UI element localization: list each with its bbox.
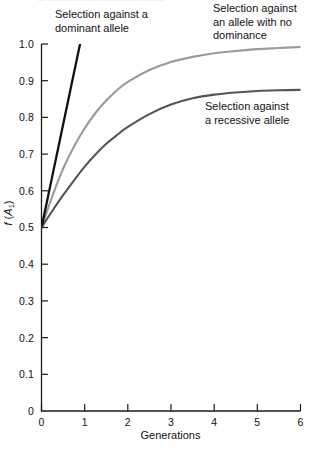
- x-tick-label-5: 5: [247, 417, 267, 428]
- y-axis-title-allele: A: [2, 208, 14, 215]
- y-tick-label-0.7: 0.7: [6, 149, 34, 160]
- y-tick-label-0.2: 0.2: [6, 333, 34, 344]
- y-tick-label-0.3: 0.3: [6, 296, 34, 307]
- y-axis-title-f: f: [2, 222, 14, 225]
- x-axis-title: Generations: [41, 429, 300, 441]
- x-tick-label-3: 3: [161, 417, 181, 428]
- x-tick-label-1: 1: [75, 417, 95, 428]
- x-tick-label-0: 0: [32, 417, 52, 428]
- y-tick-label-0.8: 0.8: [6, 112, 34, 123]
- x-tick-label-2: 2: [118, 417, 138, 428]
- x-tick-label-4: 4: [204, 417, 224, 428]
- annotation-no-dominance: Selection against an allele with no domi…: [213, 2, 313, 43]
- x-tick-label-6: 6: [291, 417, 311, 428]
- plot-canvas: [0, 0, 313, 449]
- y-axis-title-subscript: 1: [7, 204, 16, 208]
- annotation-dominant-allele: Selection against a dominant allele: [55, 8, 195, 35]
- y-tick-label-0.9: 0.9: [6, 76, 34, 87]
- y-tick-label-1.0: 1.0: [6, 39, 34, 50]
- annotation-recessive-allele: Selection against a recessive allele: [205, 100, 313, 127]
- y-tick-label-0: 0: [6, 406, 34, 417]
- allele-frequency-chart: 1.0 0.9 0.8 0.7 0.6 0.5 0.4 0.3 0.2 0.1 …: [0, 0, 313, 449]
- curve-no-dominance: [42, 47, 301, 228]
- x-tick-marks: [42, 404, 301, 411]
- y-tick-label-0.1: 0.1: [6, 369, 34, 380]
- y-tick-label-0.4: 0.4: [6, 259, 34, 270]
- y-axis-title: f (A1): [2, 188, 16, 238]
